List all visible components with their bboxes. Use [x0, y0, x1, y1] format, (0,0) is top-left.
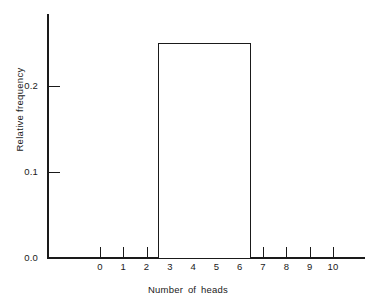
x-tick-mark [123, 247, 124, 257]
x-tick-mark [263, 247, 264, 257]
x-tick-label: 9 [307, 261, 312, 272]
x-tick-label: 5 [214, 261, 219, 272]
y-axis-title: Relative frequency [14, 35, 25, 185]
x-tick-mark [310, 247, 311, 257]
y-tick-mark [49, 172, 60, 173]
y-axis-line [47, 14, 49, 259]
x-tick-label: 3 [167, 261, 172, 272]
x-tick-mark [100, 247, 101, 257]
x-tick-label: 6 [237, 261, 242, 272]
x-tick-mark [333, 247, 334, 257]
x-tick-mark [147, 247, 148, 257]
x-tick-label: 10 [328, 261, 339, 272]
x-tick-label: 2 [144, 261, 149, 272]
x-tick-label: 7 [260, 261, 265, 272]
x-tick-label: 4 [190, 261, 195, 272]
x-tick-label: 8 [284, 261, 289, 272]
y-tick-mark [49, 86, 60, 87]
histogram-figure: 0.00.10.2 012345678910 Number of heads R… [0, 0, 376, 305]
x-tick-label: 1 [121, 261, 126, 272]
x-tick-label: 0 [97, 261, 102, 272]
y-tick-mark [49, 258, 60, 259]
x-axis-title: Number of heads [0, 284, 376, 295]
x-tick-mark [286, 247, 287, 257]
y-tick-label: 0.0 [0, 252, 47, 263]
histogram-bar [158, 43, 251, 258]
